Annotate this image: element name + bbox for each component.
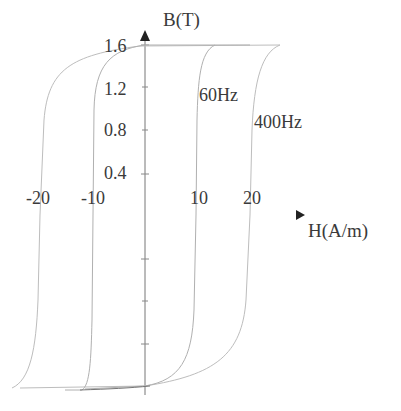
x-tick-label-20: 20	[243, 189, 261, 207]
y-tick-label-1.6: 1.6	[104, 37, 127, 55]
x-tick-label-10: 10	[190, 189, 208, 207]
y-tick-label-0.8: 0.8	[104, 121, 127, 139]
x-tick-label-minus-10: -10	[81, 189, 105, 207]
y-axis-arrow-icon	[140, 30, 150, 41]
y-tick-label-0.4: 0.4	[104, 164, 127, 182]
y-tick-label-1.2: 1.2	[104, 80, 127, 98]
x-axis-arrow-icon	[296, 210, 305, 220]
series-400hz	[12, 45, 280, 388]
y-axis-label: B(T)	[163, 11, 200, 29]
x-axis-label: H(A/m)	[308, 222, 368, 240]
series-label-60hz: 60Hz	[199, 86, 238, 104]
x-tick-label-minus-20: -20	[26, 189, 50, 207]
series-label-400hz: 400Hz	[254, 113, 302, 131]
